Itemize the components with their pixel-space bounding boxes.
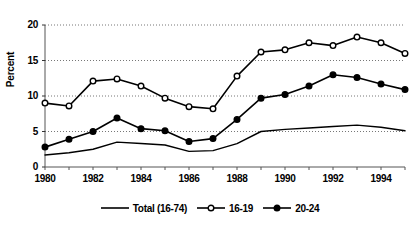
legend-item-label: 20-24: [295, 203, 319, 214]
legend-item[interactable]: 20-24: [262, 202, 319, 214]
series-20-24: [42, 72, 408, 150]
legend-marker-none-icon: [100, 202, 130, 214]
legend-item-label: Total (16-74): [133, 203, 187, 214]
data-series-layer: [42, 34, 408, 155]
plot-area: [0, 0, 419, 232]
legend-marker-open-circle-icon: [196, 202, 226, 214]
chart-legend: Total (16-74)16-1920-24: [0, 202, 419, 214]
line-chart: Percent 05101520 19801982198419861988199…: [0, 0, 419, 232]
gridlines: [45, 25, 405, 132]
legend-item-label: 16-19: [229, 203, 253, 214]
legend-item[interactable]: 16-19: [196, 202, 253, 214]
series-16-19: [42, 34, 408, 111]
legend-marker-filled-circle-icon: [262, 202, 292, 214]
legend-item[interactable]: Total (16-74): [100, 202, 187, 214]
